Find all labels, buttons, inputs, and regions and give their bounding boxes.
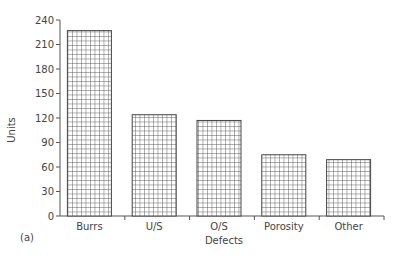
y-tick-label: 150: [35, 88, 54, 99]
y-tick-label: 240: [35, 15, 54, 26]
y-axis-title: Units: [6, 117, 17, 143]
x-category-label: Burrs: [76, 221, 102, 232]
y-tick-label: 90: [41, 137, 54, 148]
bar-chart: 0306090120150180210240 BurrsU/SO/SPorosi…: [0, 0, 405, 260]
bars: [67, 31, 370, 216]
bar-other: [327, 160, 371, 216]
bar-us: [132, 115, 176, 216]
x-category-label: Porosity: [264, 221, 304, 232]
bar-os: [197, 120, 241, 216]
y-tick-label: 180: [35, 64, 54, 75]
x-axis-title: Defects: [205, 235, 243, 246]
x-axis: BurrsU/SO/SPorosityOther: [60, 216, 384, 232]
bar-burrs: [67, 31, 111, 216]
bar-porosity: [262, 155, 306, 216]
y-tick-label: 120: [35, 113, 54, 124]
y-tick-label: 60: [41, 162, 54, 173]
x-category-label: O/S: [210, 221, 228, 232]
panel-label: (a): [20, 232, 34, 243]
y-tick-label: 30: [41, 186, 54, 197]
x-category-label: U/S: [146, 221, 163, 232]
x-category-label: Other: [334, 221, 363, 232]
y-tick-label: 0: [48, 211, 54, 222]
y-tick-label: 210: [35, 39, 54, 50]
y-axis: 0306090120150180210240: [35, 15, 60, 222]
